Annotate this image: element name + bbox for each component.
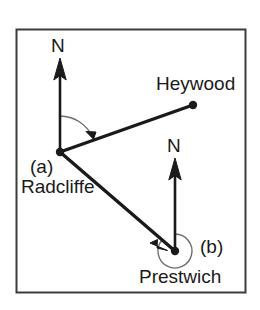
label-north-prestwich: N <box>167 136 181 155</box>
diagram-canvas <box>0 0 260 310</box>
label-prestwich: Prestwich <box>139 267 221 286</box>
label-radcliffe: Radcliffe <box>21 177 95 196</box>
label-angle-b: (b) <box>200 237 223 256</box>
label-north-radcliffe: N <box>51 36 65 55</box>
point-dot-heywood <box>189 101 197 109</box>
point-dot-prestwich <box>171 247 179 255</box>
point-dot-radcliffe <box>56 148 64 156</box>
bearings-figure: N N Heywood (a) Radcliffe (b) Prestwich <box>0 0 260 310</box>
label-heywood: Heywood <box>156 74 235 93</box>
label-angle-a: (a) <box>30 157 53 176</box>
